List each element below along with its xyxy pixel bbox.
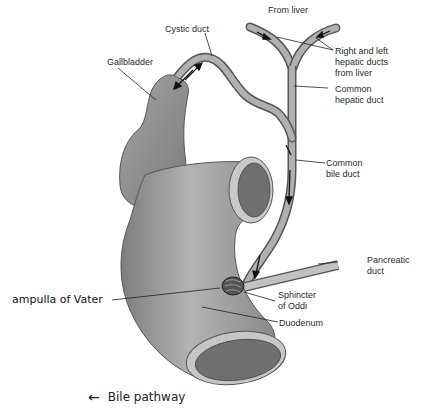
label-pancreatic-duct: Pancreatic duct: [367, 255, 410, 277]
label-hepatic-ducts: Right and left hepatic ducts from liver: [335, 46, 388, 79]
label-common-hepatic-duct: Common hepatic duct: [335, 84, 384, 106]
cystic-duct: [175, 57, 292, 138]
label-cystic-duct: Cystic duct: [165, 24, 209, 35]
sphincter-of-oddi: [222, 277, 244, 295]
label-sphincter-of-oddi: Sphincter of Oddi: [278, 290, 316, 312]
label-gallbladder: Gallbladder: [107, 57, 153, 68]
label-ampulla-of-vater: ampulla of Vater: [12, 294, 103, 305]
label-duodenum: Duodenum: [279, 318, 323, 329]
legend-label: Bile pathway: [108, 390, 186, 404]
legend: ← Bile pathway: [88, 389, 185, 405]
label-from-liver: From liver: [268, 5, 308, 16]
label-common-bile-duct: Common bile duct: [326, 158, 363, 180]
left-arrow-icon: ←: [88, 389, 100, 405]
